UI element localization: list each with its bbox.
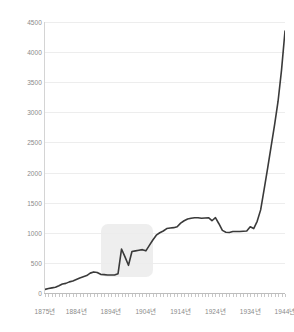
x-axis-minor-tick: [69, 294, 70, 297]
x-axis-minor-tick: [146, 294, 147, 297]
x-axis-minor-tick: [275, 294, 276, 297]
x-axis-minor-tick: [97, 294, 98, 297]
x-axis-minor-tick: [167, 294, 168, 297]
x-axis-minor-tick: [278, 294, 279, 297]
x-axis-minor-tick: [94, 294, 95, 297]
y-axis-tick-labels: 050010001500200025003000350040004500: [0, 0, 42, 332]
x-axis-minor-tick: [76, 294, 77, 297]
x-axis-minor-tick: [149, 294, 150, 297]
x-axis-minor-tick: [125, 294, 126, 297]
x-axis-minor-tick: [202, 294, 203, 297]
x-axis-minor-tick: [236, 294, 237, 297]
x-axis-minor-tick: [240, 294, 241, 297]
x-axis-minor-tick: [156, 294, 157, 297]
y-axis-tick-label: 3000: [4, 109, 42, 116]
x-axis-minor-tick: [195, 294, 196, 297]
x-axis-minor-tick: [268, 294, 269, 297]
x-axis-minor-tick: [101, 294, 102, 297]
x-axis-minor-tick: [160, 294, 161, 297]
x-axis-minor-tick: [198, 294, 199, 297]
y-axis-tick-label: 3500: [4, 79, 42, 86]
x-axis-minor-tick: [181, 294, 182, 297]
x-axis-tick-label: 1914년: [170, 306, 191, 316]
x-axis-minor-tick: [205, 294, 206, 297]
x-axis-minor-tick: [254, 294, 255, 297]
x-axis-minor-tick: [132, 294, 133, 297]
x-axis-minor-ticks: [45, 294, 285, 298]
x-axis-minor-tick: [73, 294, 74, 297]
x-axis-tick-label: 1924년: [205, 306, 226, 316]
x-axis-tick-label: 1944년: [275, 306, 294, 316]
x-axis-minor-tick: [250, 294, 251, 297]
x-axis-minor-tick: [229, 294, 230, 297]
x-axis-minor-tick: [111, 294, 112, 297]
x-axis-minor-tick: [52, 294, 53, 297]
y-axis-tick-label: 500: [4, 259, 42, 266]
y-axis-tick-label: 0: [4, 290, 42, 297]
x-axis-minor-tick: [139, 294, 140, 297]
x-axis-minor-tick: [282, 294, 283, 297]
x-axis-tick-label: 1904년: [135, 306, 156, 316]
x-axis-minor-tick: [170, 294, 171, 297]
x-axis-minor-tick: [215, 294, 216, 297]
x-axis-minor-tick: [59, 294, 60, 297]
y-axis-tick-label: 1500: [4, 199, 42, 206]
x-axis-minor-tick: [115, 294, 116, 297]
x-axis-minor-tick: [128, 294, 129, 297]
x-axis-tick-label: 1884년: [66, 306, 87, 316]
x-axis-minor-tick: [90, 294, 91, 297]
x-axis-tick-label: 1875년: [35, 306, 56, 316]
x-axis-minor-tick: [233, 294, 234, 297]
x-axis-minor-tick: [222, 294, 223, 297]
data-series-line: [45, 22, 285, 293]
x-axis-minor-tick: [80, 294, 81, 297]
x-axis-minor-tick: [208, 294, 209, 297]
x-axis-minor-tick: [247, 294, 248, 297]
x-axis-tick-label: 1894년: [101, 306, 122, 316]
x-axis-minor-tick: [191, 294, 192, 297]
y-axis-tick-label: 2500: [4, 139, 42, 146]
x-axis-minor-tick: [188, 294, 189, 297]
x-axis-minor-tick: [118, 294, 119, 297]
x-axis-minor-tick: [55, 294, 56, 297]
y-axis-tick-label: 4000: [4, 49, 42, 56]
x-axis-minor-tick: [83, 294, 84, 297]
x-axis-minor-tick: [257, 294, 258, 297]
y-axis-tick-label: 1000: [4, 229, 42, 236]
x-axis-minor-tick: [62, 294, 63, 297]
x-axis-minor-tick: [153, 294, 154, 297]
x-axis-minor-tick: [66, 294, 67, 297]
x-axis-minor-tick: [212, 294, 213, 297]
x-axis-minor-tick: [135, 294, 136, 297]
x-axis-minor-tick: [285, 294, 286, 297]
x-axis-minor-tick: [163, 294, 164, 297]
line-chart: 050010001500200025003000350040004500 187…: [0, 0, 294, 332]
x-axis-minor-tick: [45, 294, 46, 297]
x-axis-minor-tick: [108, 294, 109, 297]
x-axis-minor-tick: [48, 294, 49, 297]
x-axis-minor-tick: [122, 294, 123, 297]
x-axis-minor-tick: [243, 294, 244, 297]
y-axis-tick-label: 2000: [4, 169, 42, 176]
x-axis-minor-tick: [261, 294, 262, 297]
x-axis-minor-tick: [177, 294, 178, 297]
x-axis-tick-labels: 1875년1884년1894년1904년1914년1924년1934년1944년: [0, 306, 294, 324]
x-axis-minor-tick: [219, 294, 220, 297]
x-axis-tick-label: 1934년: [240, 306, 261, 316]
x-axis-minor-tick: [104, 294, 105, 297]
x-axis-minor-tick: [226, 294, 227, 297]
x-axis-minor-tick: [142, 294, 143, 297]
x-axis-minor-tick: [87, 294, 88, 297]
y-axis-tick-label: 4500: [4, 19, 42, 26]
x-axis-minor-tick: [271, 294, 272, 297]
x-axis-minor-tick: [264, 294, 265, 297]
y-axis-line: [44, 22, 45, 294]
x-axis-minor-tick: [174, 294, 175, 297]
x-axis-minor-tick: [184, 294, 185, 297]
